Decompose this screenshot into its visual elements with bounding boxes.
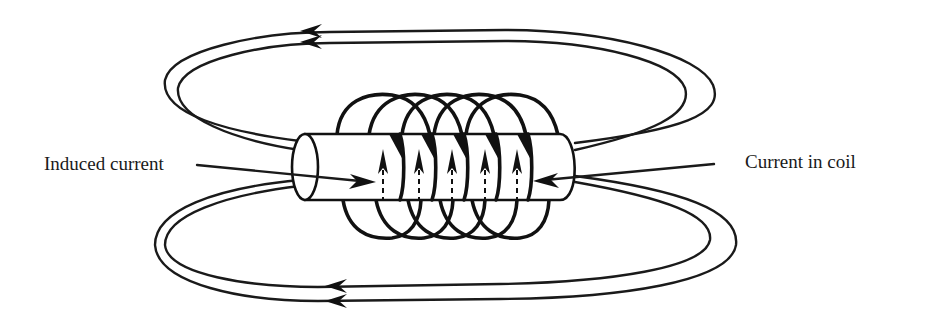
solenoid-diagram: Induced current Current in coil	[0, 0, 926, 324]
cylinder-body	[305, 134, 575, 200]
upper-field-line-outer	[165, 30, 715, 143]
induced-current-label: Induced current	[44, 154, 164, 173]
cylinder-end-left	[292, 134, 318, 200]
upper-field-lines	[165, 24, 715, 150]
current-in-coil-label: Current in coil	[745, 152, 856, 171]
